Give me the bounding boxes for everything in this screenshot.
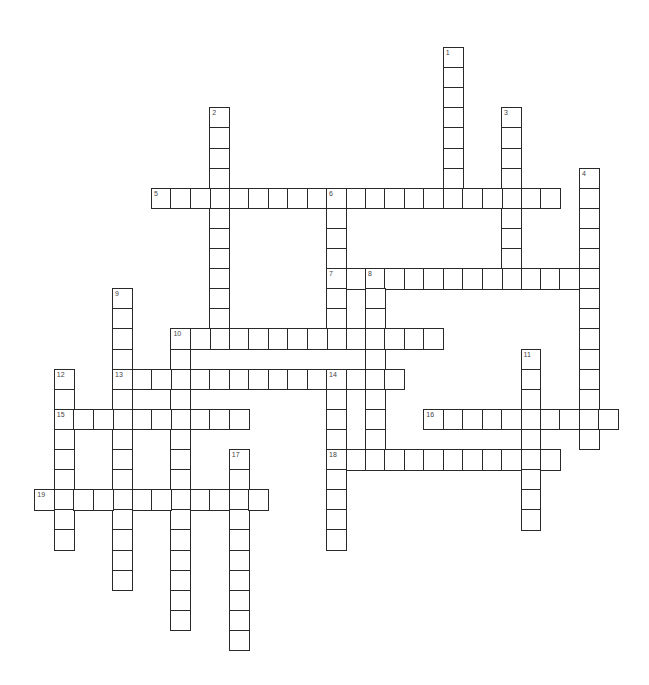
crossword-cell[interactable] (54, 509, 75, 531)
crossword-cell[interactable] (268, 188, 289, 210)
crossword-cell[interactable] (112, 409, 133, 431)
crossword-cell[interactable] (384, 188, 405, 210)
crossword-cell[interactable] (326, 288, 347, 310)
crossword-cell[interactable] (190, 489, 211, 511)
crossword-cell[interactable] (462, 449, 483, 471)
crossword-cell[interactable] (170, 570, 191, 592)
crossword-cell[interactable] (404, 328, 425, 350)
crossword-cell[interactable] (404, 449, 425, 471)
crossword-cell[interactable]: 1 (443, 47, 464, 69)
crossword-cell[interactable] (209, 168, 230, 190)
crossword-cell[interactable]: 10 (170, 328, 191, 350)
crossword-cell[interactable] (462, 409, 483, 431)
crossword-cell[interactable] (229, 188, 250, 210)
crossword-cell[interactable] (54, 469, 75, 491)
crossword-cell[interactable] (326, 509, 347, 531)
crossword-cell[interactable] (229, 469, 250, 491)
crossword-cell[interactable] (521, 409, 542, 431)
crossword-cell[interactable] (579, 228, 600, 250)
crossword-cell[interactable] (54, 489, 75, 511)
crossword-cell[interactable] (443, 168, 464, 190)
crossword-cell[interactable] (229, 590, 250, 612)
crossword-cell[interactable] (170, 349, 191, 371)
crossword-cell[interactable] (112, 529, 133, 551)
crossword-cell[interactable] (209, 328, 230, 350)
crossword-cell[interactable] (248, 328, 269, 350)
crossword-cell[interactable] (132, 369, 153, 391)
crossword-cell[interactable] (170, 369, 191, 391)
crossword-cell[interactable] (170, 409, 191, 431)
crossword-cell[interactable]: 19 (34, 489, 55, 511)
crossword-cell[interactable] (229, 630, 250, 652)
crossword-cell[interactable] (132, 409, 153, 431)
crossword-cell[interactable] (326, 389, 347, 411)
crossword-cell[interactable] (151, 409, 172, 431)
crossword-cell[interactable] (112, 489, 133, 511)
crossword-cell[interactable] (579, 409, 600, 431)
crossword-cell[interactable] (559, 268, 580, 290)
crossword-cell[interactable] (521, 489, 542, 511)
crossword-cell[interactable] (384, 369, 405, 391)
crossword-cell[interactable] (170, 509, 191, 531)
crossword-cell[interactable] (209, 228, 230, 250)
crossword-cell[interactable]: 9 (112, 288, 133, 310)
crossword-cell[interactable] (346, 268, 367, 290)
crossword-cell[interactable] (521, 449, 542, 471)
crossword-cell[interactable]: 2 (209, 107, 230, 129)
crossword-cell[interactable] (579, 288, 600, 310)
crossword-cell[interactable] (73, 489, 94, 511)
crossword-cell[interactable] (598, 409, 619, 431)
crossword-cell[interactable] (209, 409, 230, 431)
crossword-cell[interactable] (579, 308, 600, 330)
crossword-cell[interactable] (521, 268, 542, 290)
crossword-cell[interactable] (579, 208, 600, 230)
crossword-cell[interactable] (521, 369, 542, 391)
crossword-cell[interactable] (248, 369, 269, 391)
crossword-cell[interactable] (170, 489, 191, 511)
crossword-cell[interactable] (365, 328, 386, 350)
crossword-cell[interactable] (326, 469, 347, 491)
crossword-cell[interactable] (346, 369, 367, 391)
crossword-cell[interactable] (170, 550, 191, 572)
crossword-cell[interactable] (307, 369, 328, 391)
crossword-cell[interactable] (521, 188, 542, 210)
crossword-cell[interactable] (365, 349, 386, 371)
crossword-cell[interactable] (170, 590, 191, 612)
crossword-cell[interactable] (132, 489, 153, 511)
crossword-cell[interactable] (501, 268, 522, 290)
crossword-cell[interactable] (54, 449, 75, 471)
crossword-cell[interactable] (462, 268, 483, 290)
crossword-cell[interactable] (209, 188, 230, 210)
crossword-cell[interactable] (443, 67, 464, 89)
crossword-cell[interactable] (579, 389, 600, 411)
crossword-cell[interactable] (287, 328, 308, 350)
crossword-cell[interactable] (423, 268, 444, 290)
crossword-cell[interactable] (170, 469, 191, 491)
crossword-cell[interactable] (501, 188, 522, 210)
crossword-cell[interactable] (559, 409, 580, 431)
crossword-cell[interactable] (54, 389, 75, 411)
crossword-cell[interactable] (443, 127, 464, 149)
crossword-cell[interactable] (229, 550, 250, 572)
crossword-cell[interactable] (170, 389, 191, 411)
crossword-cell[interactable] (443, 409, 464, 431)
crossword-cell[interactable] (482, 268, 503, 290)
crossword-cell[interactable] (112, 550, 133, 572)
crossword-cell[interactable] (112, 469, 133, 491)
crossword-cell[interactable] (579, 328, 600, 350)
crossword-cell[interactable] (93, 489, 114, 511)
crossword-cell[interactable] (307, 328, 328, 350)
crossword-cell[interactable] (326, 208, 347, 230)
crossword-cell[interactable] (229, 509, 250, 531)
crossword-cell[interactable] (462, 188, 483, 210)
crossword-cell[interactable]: 15 (54, 409, 75, 431)
crossword-cell[interactable] (209, 489, 230, 511)
crossword-cell[interactable] (248, 489, 269, 511)
crossword-cell[interactable] (540, 449, 561, 471)
crossword-cell[interactable]: 18 (326, 449, 347, 471)
crossword-cell[interactable] (190, 328, 211, 350)
crossword-cell[interactable] (501, 449, 522, 471)
crossword-cell[interactable] (521, 469, 542, 491)
crossword-cell[interactable] (54, 529, 75, 551)
crossword-cell[interactable] (229, 328, 250, 350)
